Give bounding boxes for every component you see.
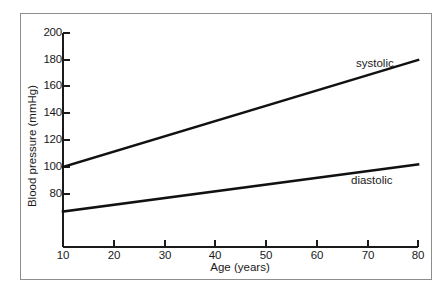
x-tick-label-40: 40 [200,249,230,261]
x-tick-label-50: 50 [251,249,281,261]
x-tick-label-60: 60 [302,249,332,261]
x-axis-ticks [63,240,418,247]
x-tick-label-10: 10 [48,249,78,261]
figure-canvas: 200 180 160 140 120 100 80 10 20 30 40 5… [0,0,446,295]
series-label-systolic: systolic [356,57,394,69]
series-line-diastolic [63,165,418,212]
series-line-systolic [63,60,418,167]
x-tick-label-30: 30 [150,249,180,261]
y-axis-ticks [63,33,70,194]
y-axis-title: Blood pressure (mmHg) [26,66,38,226]
y-tick-label-200: 200 [28,26,62,38]
x-axis-title: Age (years) [180,261,300,273]
y-tick-label-180: 180 [28,53,62,65]
x-tick-label-70: 70 [353,249,383,261]
series-label-diastolic: diastolic [351,174,393,186]
x-tick-label-20: 20 [99,249,129,261]
x-tick-label-80: 80 [403,249,433,261]
